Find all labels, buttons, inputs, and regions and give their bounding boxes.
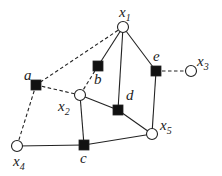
variable-node-x2-icon[interactable]: [75, 90, 86, 101]
labels-layer: abcdex1x2x3x4x5: [12, 4, 209, 172]
factor-node-d-icon[interactable]: [113, 105, 123, 115]
variable-node-x1-icon[interactable]: [118, 22, 129, 33]
graph-canvas: abcdex1x2x3x4x5: [0, 0, 222, 176]
edge-a-x2: [36, 85, 80, 95]
variable-node-x4-icon[interactable]: [12, 141, 23, 152]
edge-a-x4: [17, 85, 36, 146]
variable-node-x5-icon[interactable]: [147, 129, 158, 140]
variable-label-x2: x2: [57, 98, 70, 117]
variable-label-x1: x1: [118, 4, 131, 23]
edge-x1-e: [123, 27, 156, 71]
edge-x1-b: [98, 27, 123, 66]
edge-x4-c: [17, 145, 84, 146]
factor-node-a-icon[interactable]: [31, 80, 41, 90]
edge-x1-a: [36, 27, 123, 85]
edge-c-x5: [84, 134, 152, 145]
edge-x2-d: [80, 95, 118, 110]
factor-label-b: b: [94, 71, 102, 87]
variable-node-x3-icon[interactable]: [186, 66, 197, 77]
factor-label-a: a: [24, 67, 32, 83]
edge-x2-c: [80, 95, 84, 145]
variable-label-x5: x5: [159, 117, 172, 136]
factor-node-e-icon[interactable]: [151, 66, 161, 76]
factor-label-d: d: [126, 87, 134, 103]
edge-e-x5: [152, 71, 156, 134]
edge-x1-d: [118, 27, 123, 110]
factor-node-c-icon[interactable]: [79, 140, 89, 150]
factor-node-b-icon[interactable]: [93, 61, 103, 71]
factor-label-e: e: [153, 48, 160, 64]
variable-label-x3: x3: [196, 53, 209, 72]
variable-label-x4: x4: [12, 153, 25, 172]
factor-label-c: c: [80, 150, 87, 166]
